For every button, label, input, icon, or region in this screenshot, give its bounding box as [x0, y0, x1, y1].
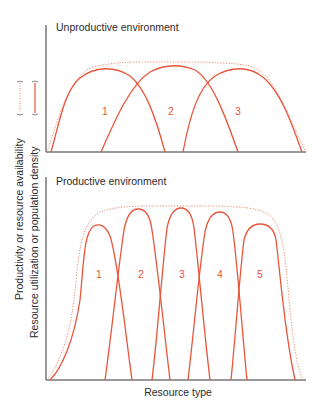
- bottom-curve-label-3: 3: [179, 268, 185, 280]
- bottom-curve-label-4: 4: [217, 268, 223, 280]
- top-curve-3: [183, 69, 302, 152]
- top-panel-plot: [46, 25, 306, 152]
- bottom-panel-plot: [46, 177, 306, 380]
- x-axis-label: Resource type: [144, 386, 212, 398]
- niche-partitioning-diagram: Unproductive environment Productive envi…: [0, 0, 325, 416]
- top-panel-title: Unproductive environment: [56, 21, 179, 33]
- top-curve-label-3: 3: [235, 105, 241, 117]
- bottom-envelope-dotted: [47, 206, 303, 380]
- y-axis-label-dotted: Productivity or resource availability: [13, 138, 25, 300]
- bottom-curve-label-5: 5: [257, 268, 263, 280]
- bottom-curve-1: [50, 225, 132, 380]
- top-curve-label-1: 1: [102, 105, 108, 117]
- top-envelope-dotted: [47, 62, 306, 152]
- bottom-curve-label-1: 1: [96, 268, 102, 280]
- bottom-curve-3: [152, 208, 210, 380]
- legend-solid-bracket-icon: [32, 81, 38, 115]
- top-curve-label-2: 2: [168, 105, 174, 117]
- y-axis-label-solid: Resource utilization or population densi…: [28, 147, 40, 338]
- bottom-panel-title: Productive environment: [56, 175, 166, 187]
- legend-dotted-bracket-icon: [17, 81, 23, 115]
- bottom-curve-label-2: 2: [138, 268, 144, 280]
- diagram-canvas: [0, 0, 325, 416]
